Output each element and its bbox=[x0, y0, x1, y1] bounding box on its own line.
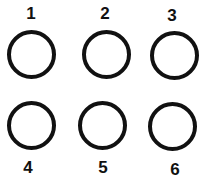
label-1: 1 bbox=[21, 5, 41, 22]
circle-5 bbox=[78, 101, 127, 150]
label-4: 4 bbox=[18, 159, 38, 176]
circle-2 bbox=[82, 30, 131, 79]
label-2: 2 bbox=[95, 5, 115, 22]
label-6: 6 bbox=[165, 161, 185, 178]
circle-6 bbox=[148, 102, 197, 151]
label-5: 5 bbox=[93, 159, 113, 176]
circle-4 bbox=[7, 101, 56, 150]
label-3: 3 bbox=[162, 7, 182, 24]
circle-3 bbox=[150, 31, 199, 80]
circle-1 bbox=[7, 30, 56, 79]
